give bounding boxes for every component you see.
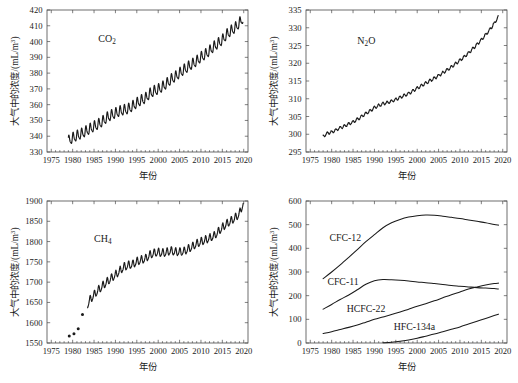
chart-panel-halocarbons: 1975198019851990199520002005201020152020…: [259, 191, 518, 383]
svg-text:1980: 1980: [323, 346, 340, 356]
series-label-cfc-12: CFC-12: [330, 232, 362, 243]
series-label-hfc-134a: HFC-134a: [394, 321, 436, 332]
svg-text:410: 410: [30, 21, 43, 31]
svg-text:年份: 年份: [139, 170, 158, 181]
svg-text:500: 500: [289, 220, 302, 230]
svg-text:大气中的浓度/(mL/m3): 大气中的浓度/(mL/m3): [268, 36, 280, 125]
svg-text:1750: 1750: [25, 257, 42, 267]
svg-text:2005: 2005: [171, 155, 188, 165]
co2-svg: 1975198019851990199520002005201020152020…: [0, 0, 259, 192]
svg-text:2005: 2005: [430, 155, 447, 165]
ch4-series: [88, 203, 244, 308]
svg-text:1700: 1700: [25, 277, 42, 287]
n2o-svg: 1975198019851990199520002005201020152020…: [259, 0, 518, 192]
svg-text:100: 100: [289, 314, 302, 324]
ch4-early-point: [72, 332, 75, 335]
n2o-gas-label: N2O: [357, 35, 375, 49]
svg-text:310: 310: [289, 94, 302, 104]
svg-text:2015: 2015: [214, 155, 231, 165]
svg-text:1650: 1650: [25, 297, 42, 307]
ch4-early-point: [77, 327, 80, 330]
svg-text:1600: 1600: [25, 318, 42, 328]
svg-text:2020: 2020: [235, 346, 252, 356]
chart-panel-ch4: 1975198019851990199520002005201020152020…: [0, 191, 259, 383]
svg-text:400: 400: [289, 243, 302, 253]
svg-text:1800: 1800: [25, 237, 42, 247]
svg-text:年份: 年份: [139, 361, 158, 372]
svg-text:1975: 1975: [302, 155, 319, 165]
chart-panel-n2o: 1975198019851990199520002005201020152020…: [259, 0, 518, 192]
svg-text:大气中的浓度/(mL/m3): 大气中的浓度/(mL/m3): [9, 36, 21, 125]
svg-text:2000: 2000: [409, 346, 426, 356]
svg-text:大气中的浓度/(mL/m3): 大气中的浓度/(mL/m3): [9, 227, 21, 316]
svg-text:2010: 2010: [451, 155, 468, 165]
svg-text:315: 315: [289, 76, 302, 86]
svg-text:200: 200: [289, 291, 302, 301]
svg-text:2000: 2000: [150, 155, 167, 165]
svg-text:1995: 1995: [387, 155, 404, 165]
svg-text:1990: 1990: [107, 346, 124, 356]
svg-text:2000: 2000: [150, 346, 167, 356]
svg-text:1995: 1995: [387, 346, 404, 356]
svg-text:年份: 年份: [398, 361, 417, 372]
svg-text:2010: 2010: [192, 155, 209, 165]
svg-text:2020: 2020: [235, 155, 252, 165]
svg-text:2015: 2015: [473, 155, 490, 165]
svg-text:295: 295: [289, 147, 302, 157]
svg-text:340: 340: [30, 131, 43, 141]
svg-text:305: 305: [289, 112, 302, 122]
n2o-series: [323, 16, 498, 137]
svg-text:1990: 1990: [366, 346, 383, 356]
svg-text:1850: 1850: [25, 216, 42, 226]
svg-text:370: 370: [30, 84, 43, 94]
svg-text:1975: 1975: [43, 155, 60, 165]
svg-text:1980: 1980: [323, 155, 340, 165]
svg-text:380: 380: [30, 68, 43, 78]
svg-text:1990: 1990: [366, 155, 383, 165]
halocarbons-svg: 1975198019851990199520002005201020152020…: [259, 191, 518, 383]
svg-text:325: 325: [289, 41, 302, 51]
svg-text:2010: 2010: [451, 346, 468, 356]
svg-text:1900: 1900: [25, 196, 42, 206]
ch4-svg: 1975198019851990199520002005201020152020…: [0, 191, 259, 383]
ch4-early-point: [68, 335, 71, 338]
svg-text:400: 400: [30, 37, 43, 47]
svg-text:1975: 1975: [43, 346, 60, 356]
svg-text:2000: 2000: [409, 155, 426, 165]
svg-text:1550: 1550: [25, 338, 42, 348]
series-label-cfc-11: CFC-11: [327, 276, 358, 287]
svg-text:420: 420: [30, 5, 43, 15]
svg-text:1985: 1985: [344, 155, 361, 165]
svg-text:360: 360: [30, 100, 43, 110]
svg-text:2015: 2015: [473, 346, 490, 356]
svg-text:320: 320: [289, 58, 302, 68]
svg-text:2020: 2020: [494, 346, 511, 356]
ch4-gas-label: CH4: [94, 233, 112, 247]
svg-text:300: 300: [289, 129, 302, 139]
svg-text:2015: 2015: [214, 346, 231, 356]
figure-root: 1975198019851990199520002005201020152020…: [0, 0, 518, 383]
svg-text:390: 390: [30, 52, 43, 62]
svg-text:大气中的浓度/(mL/m3): 大气中的浓度/(mL/m3): [268, 227, 280, 316]
svg-text:1985: 1985: [85, 155, 102, 165]
co2-series: [68, 17, 242, 144]
svg-text:2010: 2010: [192, 346, 209, 356]
svg-text:1985: 1985: [85, 346, 102, 356]
series-label-hcfc-22: HCFC-22: [347, 303, 386, 314]
co2-gas-label: CO2: [98, 33, 116, 47]
svg-text:1995: 1995: [128, 346, 145, 356]
svg-text:年份: 年份: [398, 170, 417, 181]
svg-text:335: 335: [289, 5, 302, 15]
svg-text:300: 300: [289, 267, 302, 277]
svg-text:1975: 1975: [302, 346, 319, 356]
ch4-early-point: [81, 313, 84, 316]
chart-panel-co2: 1975198019851990199520002005201020152020…: [0, 0, 259, 192]
svg-text:2005: 2005: [171, 346, 188, 356]
svg-text:350: 350: [30, 115, 43, 125]
svg-text:330: 330: [289, 23, 302, 33]
halocarbon-series-cfc-12: [323, 215, 498, 279]
svg-text:330: 330: [30, 147, 43, 157]
svg-text:1985: 1985: [344, 346, 361, 356]
svg-text:1990: 1990: [107, 155, 124, 165]
svg-text:600: 600: [289, 196, 302, 206]
